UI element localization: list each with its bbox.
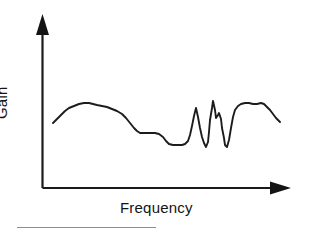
gain-response-curve	[53, 101, 280, 147]
y-axis-arrow-icon	[36, 14, 49, 35]
figure-root: Gain Frequency	[0, 0, 312, 234]
x-axis-label: Frequency	[120, 199, 193, 216]
x-axis-arrow-icon	[270, 182, 291, 195]
y-axis-label: Gain	[0, 89, 47, 119]
footer-divider	[17, 227, 156, 228]
